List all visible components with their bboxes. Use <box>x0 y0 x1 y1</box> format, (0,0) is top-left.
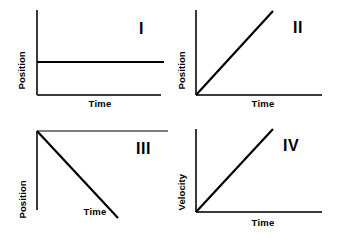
panel-ii-x-axis-label: Time <box>236 99 290 109</box>
panel-iv-numeral: IV <box>283 138 299 154</box>
physics-graphs-figure: Position Time I Position Time II Positio… <box>0 0 340 238</box>
chart-panel-iii: Position Time III <box>0 119 170 238</box>
panel-ii-y-axis-label: Position <box>177 51 187 89</box>
panel-iii-numeral: III <box>136 141 151 157</box>
panel-iv-y-axis-label: Velocity <box>177 174 187 211</box>
panel-iii-plot <box>0 119 170 238</box>
panel-iii-x-axis-label: Time <box>68 207 122 217</box>
chart-panel-ii: Position Time II <box>170 0 340 119</box>
panel-i-x-axis-label: Time <box>73 99 127 109</box>
panel-iii-data-line <box>37 131 118 218</box>
panel-i-numeral: I <box>139 21 144 37</box>
chart-panel-i: Position Time I <box>0 0 170 119</box>
panel-i-y-axis-label: Position <box>17 51 27 89</box>
chart-panel-iv: Velocity Time IV <box>170 119 340 238</box>
panel-ii-data-line <box>196 11 273 95</box>
panel-iv-x-axis-label: Time <box>236 218 290 228</box>
panel-iii-y-axis-label: Position <box>18 180 28 218</box>
panel-iv-data-line <box>196 129 273 212</box>
panel-ii-numeral: II <box>293 20 303 36</box>
